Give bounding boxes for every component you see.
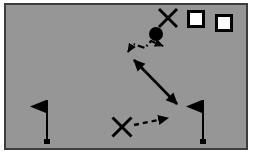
play-diagram-svg [0,0,253,167]
square-marker-1 [189,12,204,27]
field-surface [5,4,247,149]
ball-marker [149,27,163,41]
square-marker-2 [217,16,232,31]
diagram-canvas [0,0,253,167]
